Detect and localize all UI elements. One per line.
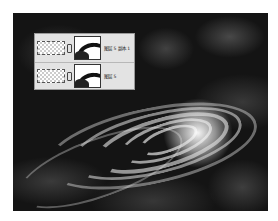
layer-name: 图层 5 副本 1 (104, 45, 130, 51)
transparent-checker-thumbnail-icon (37, 69, 65, 83)
chain-link-icon[interactable] (67, 44, 72, 53)
mask-shape (75, 79, 89, 87)
mask-shape (75, 51, 89, 59)
layers-panel: 图层 5 副本 1 图层 5 (34, 33, 135, 90)
chain-link-icon[interactable] (67, 72, 72, 81)
layer-name: 图层 5 (104, 73, 116, 79)
swirl-core-glow (163, 98, 233, 168)
layer-mask-thumbnail-icon[interactable] (74, 36, 101, 60)
transparent-checker-thumbnail-icon (37, 41, 65, 55)
layer-row[interactable]: 图层 5 (35, 62, 134, 90)
layer-row[interactable]: 图层 5 副本 1 (35, 34, 134, 63)
layer-mask-thumbnail-icon[interactable] (74, 64, 101, 88)
